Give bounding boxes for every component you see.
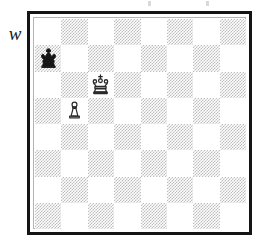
board-square-e6[interactable] xyxy=(141,72,167,98)
board-square-f3[interactable] xyxy=(167,150,193,176)
white-pawn-icon xyxy=(61,98,87,124)
board-square-e4[interactable] xyxy=(141,124,167,150)
board-square-b1[interactable] xyxy=(61,203,87,229)
board-square-c1[interactable] xyxy=(88,203,114,229)
scan-speck xyxy=(206,1,209,6)
board-square-a5[interactable] xyxy=(35,98,61,124)
board-square-b4[interactable] xyxy=(61,124,87,150)
board-square-c8[interactable] xyxy=(88,19,114,45)
board-square-b6[interactable] xyxy=(61,72,87,98)
board-square-a3[interactable] xyxy=(35,150,61,176)
board-square-g4[interactable] xyxy=(193,124,219,150)
board-square-a6[interactable] xyxy=(35,72,61,98)
board-square-d3[interactable] xyxy=(114,150,140,176)
board-square-d5[interactable] xyxy=(114,98,140,124)
board-square-b5[interactable] xyxy=(61,98,87,124)
board-square-f2[interactable] xyxy=(167,177,193,203)
board-square-e1[interactable] xyxy=(141,203,167,229)
board-square-f1[interactable] xyxy=(167,203,193,229)
side-to-move-label: w xyxy=(4,23,26,44)
board-square-d4[interactable] xyxy=(114,124,140,150)
board-square-e3[interactable] xyxy=(141,150,167,176)
board-square-d2[interactable] xyxy=(114,177,140,203)
scan-speck xyxy=(148,1,151,6)
board-square-g5[interactable] xyxy=(193,98,219,124)
white-king-icon xyxy=(88,72,114,98)
board-square-c6[interactable] xyxy=(88,72,114,98)
board-square-d6[interactable] xyxy=(114,72,140,98)
board-square-h5[interactable] xyxy=(220,98,246,124)
board-square-e2[interactable] xyxy=(141,177,167,203)
board-square-f7[interactable] xyxy=(167,45,193,71)
board-square-g8[interactable] xyxy=(193,19,219,45)
board-square-d8[interactable] xyxy=(114,19,140,45)
black-king-icon xyxy=(35,45,61,71)
board-square-g7[interactable] xyxy=(193,45,219,71)
board-square-f8[interactable] xyxy=(167,19,193,45)
board-square-a7[interactable] xyxy=(35,45,61,71)
board-square-h8[interactable] xyxy=(220,19,246,45)
board-square-b2[interactable] xyxy=(61,177,87,203)
board-grid xyxy=(35,19,246,229)
scan-artifacts xyxy=(0,0,267,10)
board-square-b7[interactable] xyxy=(61,45,87,71)
board-square-c5[interactable] xyxy=(88,98,114,124)
board-square-h4[interactable] xyxy=(220,124,246,150)
board-square-e5[interactable] xyxy=(141,98,167,124)
board-square-g1[interactable] xyxy=(193,203,219,229)
board-square-h7[interactable] xyxy=(220,45,246,71)
board-square-d1[interactable] xyxy=(114,203,140,229)
board-square-g6[interactable] xyxy=(193,72,219,98)
board-square-a8[interactable] xyxy=(35,19,61,45)
board-square-e8[interactable] xyxy=(141,19,167,45)
board-square-h3[interactable] xyxy=(220,150,246,176)
board-square-a4[interactable] xyxy=(35,124,61,150)
board-square-g3[interactable] xyxy=(193,150,219,176)
board-square-f5[interactable] xyxy=(167,98,193,124)
board-square-h6[interactable] xyxy=(220,72,246,98)
board-square-f4[interactable] xyxy=(167,124,193,150)
board-square-d7[interactable] xyxy=(114,45,140,71)
board-square-c2[interactable] xyxy=(88,177,114,203)
board-square-f6[interactable] xyxy=(167,72,193,98)
board-square-c7[interactable] xyxy=(88,45,114,71)
board-square-b3[interactable] xyxy=(61,150,87,176)
board-square-h1[interactable] xyxy=(220,203,246,229)
board-square-c3[interactable] xyxy=(88,150,114,176)
chess-board xyxy=(27,11,252,235)
board-square-g2[interactable] xyxy=(193,177,219,203)
board-square-e7[interactable] xyxy=(141,45,167,71)
board-square-a1[interactable] xyxy=(35,203,61,229)
board-square-h2[interactable] xyxy=(220,177,246,203)
board-square-c4[interactable] xyxy=(88,124,114,150)
board-square-b8[interactable] xyxy=(61,19,87,45)
board-square-a2[interactable] xyxy=(35,177,61,203)
